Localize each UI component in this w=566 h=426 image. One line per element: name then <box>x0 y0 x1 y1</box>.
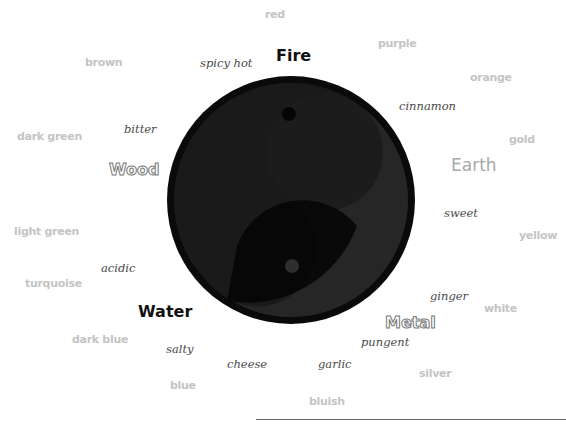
color-dark-blue: dark blue <box>72 334 128 345</box>
taste-bitter: bitter <box>124 124 157 136</box>
taste-pungent: pungent <box>361 337 409 349</box>
color-orange: orange <box>470 72 512 83</box>
color-silver: silver <box>419 368 451 379</box>
color-brown: brown <box>85 57 122 68</box>
taste-sweet: sweet <box>444 208 478 220</box>
element-water: Water <box>138 304 192 320</box>
element-metal: Metal <box>385 315 436 331</box>
yin-yang-symbol <box>167 76 415 324</box>
taste-spicy-hot: spicy hot <box>200 58 253 70</box>
taste-garlic: garlic <box>318 359 352 371</box>
color-dark-green: dark green <box>17 131 82 142</box>
element-fire: Fire <box>276 48 311 64</box>
taste-cinnamon: cinnamon <box>399 101 456 113</box>
color-blue: blue <box>170 380 196 391</box>
taste-salty: salty <box>166 344 194 356</box>
color-light-green: light green <box>14 226 79 237</box>
color-yellow: yellow <box>519 230 557 241</box>
taste-ginger: ginger <box>430 291 468 303</box>
color-gold: gold <box>509 134 535 145</box>
color-red: red <box>265 9 285 20</box>
color-purple: purple <box>378 38 416 49</box>
divider-line <box>256 419 566 420</box>
color-white: white <box>484 303 517 314</box>
color-bluish: bluish <box>309 396 345 407</box>
element-earth: Earth <box>451 157 497 174</box>
taste-acidic: acidic <box>101 263 135 275</box>
element-wood: Wood <box>109 162 160 178</box>
color-turquoise: turquoise <box>25 278 82 289</box>
taste-cheese: cheese <box>227 359 267 371</box>
